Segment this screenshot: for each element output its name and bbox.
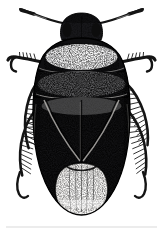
eye-right bbox=[91, 23, 100, 37]
pronotum-band bbox=[44, 43, 119, 72]
eye-left bbox=[62, 23, 71, 37]
beetle-illustration-plate: Black and white stipple engraving of an … bbox=[0, 0, 163, 233]
beetle-illustration-svg bbox=[0, 0, 163, 233]
